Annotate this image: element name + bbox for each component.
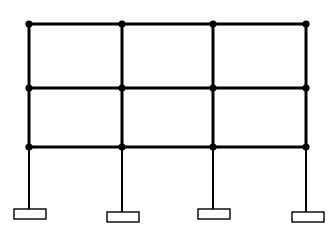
joint-node-n12: [302, 143, 309, 150]
base-plate-1: [14, 209, 46, 219]
joint-node-n9: [25, 143, 32, 150]
structural-frame-diagram: [0, 0, 335, 226]
joint-node-n2: [118, 20, 125, 27]
base-plate-4: [292, 212, 324, 222]
joint-node-n11: [209, 143, 216, 150]
joint-node-n4: [302, 20, 309, 27]
base-plate-2: [107, 212, 139, 222]
diagram-background: [0, 0, 335, 226]
joint-node-n5: [25, 84, 32, 91]
joint-node-n10: [118, 143, 125, 150]
joint-node-n7: [209, 84, 216, 91]
base-plate-3: [198, 209, 230, 219]
frame-drawing-canvas: [0, 0, 335, 226]
joint-node-n6: [118, 84, 125, 91]
joint-node-n8: [302, 84, 309, 91]
joint-node-n3: [209, 20, 216, 27]
joint-node-n1: [25, 20, 32, 27]
